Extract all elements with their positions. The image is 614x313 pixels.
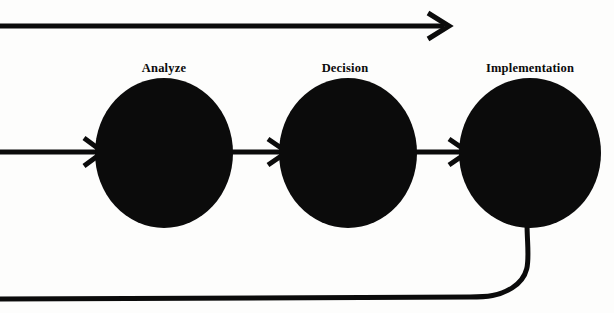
node-decision-label: Decision	[322, 61, 369, 75]
node-decision[interactable]	[279, 78, 417, 228]
node-implementation-label: Implementation	[486, 61, 574, 75]
flow-diagram-canvas: Analyze Decision Implementation	[0, 0, 614, 313]
top-feedforward-arrow	[0, 13, 449, 39]
node-analyze-shape[interactable]	[95, 78, 233, 228]
node-implementation-shape[interactable]	[459, 78, 601, 228]
feedback-loop-line	[0, 222, 528, 299]
node-decision-shape[interactable]	[279, 78, 417, 228]
node-analyze-label: Analyze	[142, 61, 187, 75]
analyze-to-decision-arrow	[228, 139, 287, 165]
feedback-loop-path	[0, 222, 528, 299]
input-arrow-to-analyze	[0, 138, 103, 166]
node-implementation[interactable]	[459, 78, 601, 228]
node-analyze[interactable]	[95, 78, 233, 228]
process-flow-diagram: Analyze Decision Implementation	[0, 0, 614, 313]
